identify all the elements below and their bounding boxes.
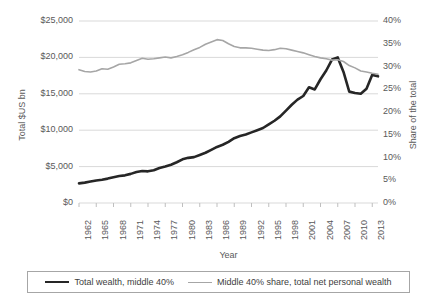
x-axis-tick-label: 1962 xyxy=(83,220,93,240)
x-axis-tick-label: 1995 xyxy=(273,220,283,240)
legend-entry-2[interactable]: Middle 40% share, total net personal wea… xyxy=(188,277,392,287)
y-axis-left-tick-label: $20,000 xyxy=(17,51,73,61)
legend-swatch-icon xyxy=(188,282,212,283)
x-axis-tick-label: 2004 xyxy=(325,220,335,240)
x-axis-tick-label: 2013 xyxy=(376,220,386,240)
y-axis-right-tick-label: 30% xyxy=(383,61,423,71)
y-axis-right-tick-label: 40% xyxy=(383,15,423,25)
chart-container: Total $US bn Share of the total Year $25… xyxy=(0,0,437,308)
x-axis-tick-label: 1965 xyxy=(100,220,110,240)
x-tick-marks-group xyxy=(79,203,372,207)
y-axis-right-tick-label: 25% xyxy=(383,83,423,93)
x-axis-title: Year xyxy=(79,250,378,260)
chart-plot-area xyxy=(0,0,437,308)
x-axis-tick-label: 1989 xyxy=(238,220,248,240)
x-axis-tick-label: 1992 xyxy=(256,220,266,240)
data-series-group xyxy=(79,40,378,184)
x-axis-tick-label: 1977 xyxy=(169,220,179,240)
x-axis-tick-label: 1983 xyxy=(204,220,214,240)
x-axis-tick-label: 1971 xyxy=(135,220,145,240)
y-axis-right-tick-label: 0% xyxy=(383,197,423,207)
y-axis-left-tick-label: $0 xyxy=(17,197,73,207)
legend-entry-1[interactable]: Total wealth, middle 40% xyxy=(45,277,174,287)
y-axis-left-title: Total $US bn xyxy=(17,65,27,165)
series-line-1 xyxy=(79,57,378,183)
y-axis-right-tick-label: 35% xyxy=(383,38,423,48)
y-axis-left-tick-label: $10,000 xyxy=(17,124,73,134)
x-axis-tick-label: 2007 xyxy=(342,220,352,240)
legend-label: Total wealth, middle 40% xyxy=(74,277,174,287)
x-axis-tick-label: 2010 xyxy=(359,220,369,240)
x-axis-tick-label: 1968 xyxy=(118,220,128,240)
chart-legend: Total wealth, middle 40%Middle 40% share… xyxy=(27,271,410,293)
x-axis-tick-label: 1986 xyxy=(221,220,231,240)
y-axis-right-tick-label: 10% xyxy=(383,152,423,162)
y-axis-left-tick-label: $15,000 xyxy=(17,88,73,98)
y-axis-left-tick-label: $25,000 xyxy=(17,15,73,25)
x-axis-tick-label: 1980 xyxy=(187,220,197,240)
y-axis-right-tick-label: 5% xyxy=(383,174,423,184)
legend-label: Middle 40% share, total net personal wea… xyxy=(217,277,392,287)
y-axis-right-tick-label: 15% xyxy=(383,129,423,139)
legend-swatch-icon xyxy=(45,281,69,283)
y-axis-right-tick-label: 20% xyxy=(383,106,423,116)
x-axis-tick-label: 1998 xyxy=(290,220,300,240)
x-axis-tick-label: 1974 xyxy=(152,220,162,240)
x-axis-tick-label: 2001 xyxy=(307,220,317,240)
y-axis-left-tick-label: $5,000 xyxy=(17,161,73,171)
